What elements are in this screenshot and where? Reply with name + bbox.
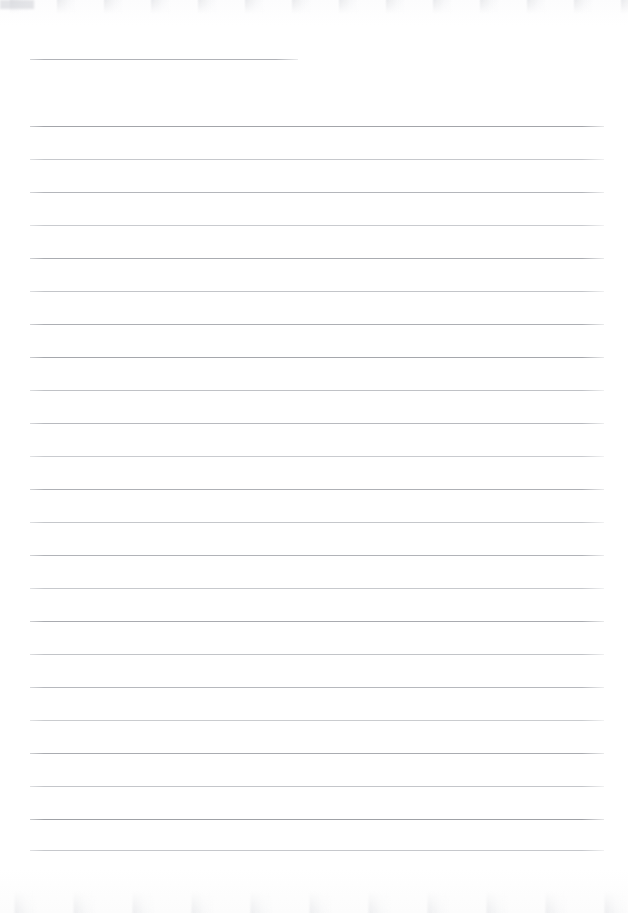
ruled-line [30, 753, 604, 754]
ruled-line [30, 159, 604, 160]
ruled-line [30, 225, 604, 226]
ruled-line [30, 720, 604, 721]
ruled-line [30, 621, 604, 622]
ruled-line [30, 357, 604, 358]
scan-noise-top-edge [0, 0, 628, 14]
ruled-line [30, 687, 604, 688]
ruled-line [30, 850, 604, 851]
ruled-line [30, 291, 604, 292]
ruled-line [30, 555, 604, 556]
ruled-line [30, 126, 604, 127]
scanned-page [0, 0, 628, 913]
ruled-line [30, 489, 604, 490]
header-rule [30, 59, 298, 60]
ruled-line [30, 258, 604, 259]
scan-smudge-top-left [0, 0, 34, 9]
ruled-line [30, 654, 604, 655]
ruled-line [30, 324, 604, 325]
ruled-line [30, 423, 604, 424]
ruled-line [30, 786, 604, 787]
ruled-line [30, 588, 604, 589]
ruled-line [30, 192, 604, 193]
ruled-line [30, 390, 604, 391]
ruled-line [30, 522, 604, 523]
ruled-line [30, 819, 604, 820]
ruled-line [30, 456, 604, 457]
scan-noise-bottom-edge [0, 891, 628, 913]
